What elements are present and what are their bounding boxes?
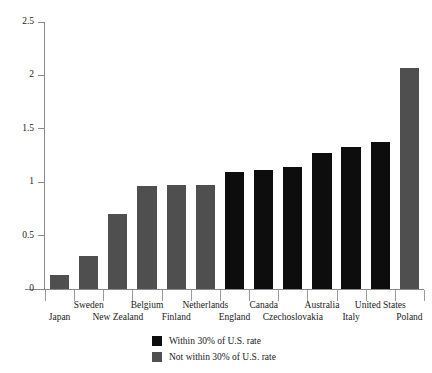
y-tick-mark	[38, 235, 44, 236]
bar-united-states	[371, 142, 390, 289]
bar-netherlands	[196, 185, 215, 289]
bar-czechoslovakia	[283, 167, 302, 289]
bar-finland	[167, 185, 186, 289]
y-tick-label: 1.5	[0, 124, 34, 134]
x-label-poland: Poland	[364, 312, 432, 323]
y-tick-mark	[38, 289, 44, 290]
bar-poland	[400, 68, 419, 289]
bar-england	[225, 172, 244, 289]
chart-legend: Within 30% of U.S. rateNot within 30% of…	[152, 333, 412, 365]
y-tick-mark	[38, 128, 44, 129]
y-tick-label: 0	[0, 284, 34, 294]
y-tick-label: 2.5	[0, 17, 34, 27]
bar-japan	[50, 275, 69, 289]
bar-chart-figure: 00.511.522.5 JapanSwedenNew ZealandBelgi…	[0, 0, 432, 373]
bar-australia	[312, 153, 331, 289]
legend-label: Not within 30% of U.S. rate	[169, 352, 276, 362]
bar-canada	[254, 170, 273, 289]
legend-item-within: Within 30% of U.S. rate	[152, 333, 412, 349]
y-tick-label: 2	[0, 70, 34, 80]
y-tick-mark	[38, 182, 44, 183]
legend-item-not-within: Not within 30% of U.S. rate	[152, 349, 412, 365]
legend-swatch-icon	[152, 352, 162, 362]
x-label-united-states: United States	[335, 300, 425, 311]
bar-sweden	[79, 256, 98, 289]
x-axis-line	[25, 289, 424, 290]
bar-new-zealand	[108, 214, 127, 289]
bar-italy	[341, 147, 360, 289]
legend-swatch-icon	[152, 336, 162, 346]
y-tick-mark	[38, 22, 44, 23]
bar-series	[45, 22, 424, 289]
y-tick-mark	[38, 75, 44, 76]
bar-belgium	[137, 186, 156, 289]
y-tick-label: 0.5	[0, 231, 34, 241]
x-axis-labels: JapanSwedenNew ZealandBelgiumFinlandNeth…	[0, 300, 432, 330]
legend-label: Within 30% of U.S. rate	[169, 336, 261, 346]
y-tick-label: 1	[0, 177, 34, 187]
